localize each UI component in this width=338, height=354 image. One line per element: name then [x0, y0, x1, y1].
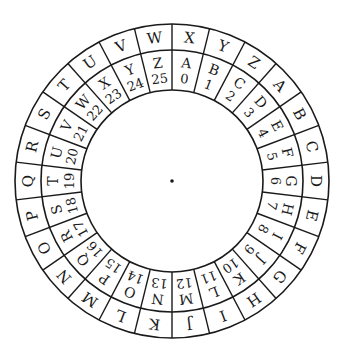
- segment-divider: [262, 162, 328, 170]
- inner-number-6: 6: [268, 177, 283, 185]
- outer-letter-l: L: [113, 305, 129, 325]
- inner-number-2: 2: [223, 88, 238, 105]
- outer-letter-s: S: [34, 105, 55, 122]
- inner-number-12: 12: [175, 275, 193, 292]
- segment-divider: [262, 192, 328, 200]
- inner-letter-i: I: [269, 230, 286, 242]
- inner-letter-z: Z: [152, 54, 164, 71]
- outer-letter-v: V: [112, 36, 131, 57]
- outer-letter-r: R: [22, 138, 42, 154]
- outer-letter-w: W: [146, 28, 164, 48]
- inner-number-18: 18: [63, 196, 82, 216]
- inner-number-7: 7: [264, 200, 281, 212]
- cipher-wheel: XYZABCDEFGHIJKLMNOPQRSTUVW A0B1C2D3E4F5G…: [0, 0, 338, 354]
- outer-letter-c: C: [302, 139, 322, 154]
- outer-letter-f: F: [289, 239, 310, 257]
- center-pivot-dot: [170, 179, 174, 183]
- inner-letter-s: S: [48, 203, 66, 216]
- inner-number-8: 8: [255, 222, 272, 236]
- outer-letter-t: T: [54, 76, 74, 95]
- inner-number-3: 3: [241, 105, 258, 121]
- outer-letter-j: J: [185, 314, 195, 333]
- cipher-wheel-svg: XYZABCDEFGHIJKLMNOPQRSTUVW A0B1C2D3E4F5G…: [0, 0, 338, 354]
- outer-letter-z: Z: [244, 52, 263, 73]
- inner-letter-m: M: [178, 290, 194, 308]
- inner-number-5: 5: [264, 151, 281, 163]
- inner-letter-t: T: [45, 176, 61, 186]
- outer-letter-p: P: [22, 208, 42, 222]
- outer-letter-a: A: [269, 75, 290, 96]
- inner-letter-g: G: [283, 175, 299, 186]
- outer-letter-g: G: [269, 266, 290, 287]
- inner-letter-n: N: [151, 290, 165, 307]
- outer-letter-x: X: [183, 28, 196, 47]
- outer-letter-q: Q: [19, 175, 37, 187]
- inner-number-1: 1: [202, 76, 215, 93]
- outer-letter-m: M: [79, 288, 102, 312]
- outer-letter-d: D: [307, 175, 325, 187]
- outer-letter-i: I: [217, 306, 229, 325]
- outer-letter-n: N: [53, 266, 75, 288]
- outer-letter-k: K: [147, 314, 161, 333]
- inner-number-13: 13: [150, 275, 168, 292]
- inner-number-19: 19: [62, 173, 77, 190]
- outer-letter-u: U: [80, 51, 101, 73]
- outer-letter-y: Y: [214, 36, 232, 57]
- outer-letter-o: O: [34, 238, 56, 257]
- outer-letter-b: B: [289, 105, 310, 123]
- inner-letter-a: A: [179, 54, 193, 71]
- inner-number-0: 0: [179, 71, 189, 87]
- inner-number-9: 9: [241, 241, 258, 257]
- inner-number-20: 20: [63, 147, 82, 167]
- inner-number-4: 4: [255, 126, 272, 140]
- outer-letter-e: E: [302, 208, 322, 223]
- outer-letter-h: H: [243, 288, 264, 310]
- inner-number-25: 25: [150, 70, 168, 87]
- inner-letter-f: F: [279, 146, 297, 160]
